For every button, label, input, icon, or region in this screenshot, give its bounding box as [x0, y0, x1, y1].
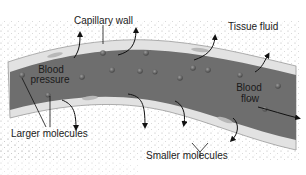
label-blood-pressure-2: pressure [29, 74, 71, 85]
label-blood-flow-1: Blood [234, 82, 264, 93]
label-blood-flow-2: flow [239, 93, 261, 104]
label-larger-molecules: Larger molecules [11, 128, 88, 139]
label-smaller-molecules: Smaller molecules [146, 150, 228, 161]
label-tissue-fluid: Tissue fluid [228, 21, 278, 32]
label-capillary-wall: Capillary wall [74, 15, 133, 26]
